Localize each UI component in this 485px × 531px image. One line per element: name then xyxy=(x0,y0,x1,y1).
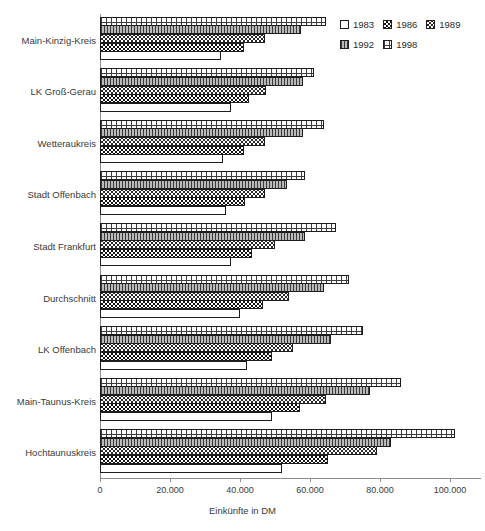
legend-item-1992[interactable]: 1992 xyxy=(340,39,374,50)
legend-swatch-icon-1989 xyxy=(426,20,435,29)
x-tick-mark xyxy=(310,478,311,482)
legend-swatch-icon-1983 xyxy=(340,20,349,29)
y-axis-category-label: Wetteraukreis xyxy=(2,137,96,148)
y-axis-category-label: LK Groß-Gerau xyxy=(2,86,96,97)
bar-1983 xyxy=(100,361,247,370)
legend-swatch-icon-1986 xyxy=(383,20,392,29)
bar-1983 xyxy=(100,206,226,215)
bar-1983 xyxy=(100,257,231,266)
plot-area xyxy=(100,14,480,478)
legend-label: 1992 xyxy=(353,39,374,50)
bar-1983 xyxy=(100,412,272,421)
legend-item-1986[interactable]: 1986 xyxy=(383,19,417,30)
bar-1983 xyxy=(100,51,221,60)
x-tick-mark xyxy=(170,478,171,482)
x-tick-label: 100.000 xyxy=(434,485,467,495)
y-axis-category-label: Durchschnitt xyxy=(2,292,96,303)
y-axis-category-label: Main-Kinzig-Kreis xyxy=(2,34,96,45)
x-axis-line xyxy=(100,478,481,479)
legend-swatch-icon-1992 xyxy=(340,40,349,49)
y-axis-category-label: Main-Taunus-Kreis xyxy=(2,395,96,406)
legend-label: 1986 xyxy=(396,19,417,30)
legend-row: 198319861989 xyxy=(340,14,485,34)
y-axis-category-label: Hochtaunuskreis xyxy=(2,447,96,458)
bar-1983 xyxy=(100,154,223,163)
legend-swatch-icon-1998 xyxy=(383,40,392,49)
x-tick-label: 60.000 xyxy=(296,485,324,495)
x-tick-label: 20.000 xyxy=(156,485,184,495)
y-axis-category-label: Stadt Offenbach xyxy=(2,189,96,200)
x-tick-label: 80.000 xyxy=(366,485,394,495)
y-axis-category-labels: Main-Kinzig-KreisLK Groß-GerauWetteraukr… xyxy=(0,0,96,531)
bar-1983 xyxy=(100,309,240,318)
x-tick-mark xyxy=(240,478,241,482)
x-tick-mark xyxy=(450,478,451,482)
x-tick-label: 40.000 xyxy=(226,485,254,495)
bar-1983 xyxy=(100,464,282,473)
x-tick-label: 0 xyxy=(97,485,102,495)
legend-label: 1983 xyxy=(353,19,374,30)
y-axis-category-label: LK Offenbach xyxy=(2,344,96,355)
bar-chart: 020.00040.00060.00080.000100.000 Einkünf… xyxy=(0,0,485,531)
chart-legend: 19831986198919921998 xyxy=(340,14,485,54)
y-axis-category-label: Stadt Frankfurt xyxy=(2,241,96,252)
x-tick-mark xyxy=(100,478,101,482)
legend-label: 1998 xyxy=(396,39,417,50)
bar-1983 xyxy=(100,103,231,112)
legend-label: 1989 xyxy=(439,19,460,30)
legend-item-1998[interactable]: 1998 xyxy=(383,39,417,50)
x-tick-mark xyxy=(380,478,381,482)
legend-item-1983[interactable]: 1983 xyxy=(340,19,374,30)
legend-item-1989[interactable]: 1989 xyxy=(426,19,460,30)
legend-row: 19921998 xyxy=(340,34,485,54)
